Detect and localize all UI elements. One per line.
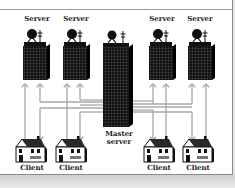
server-label: Server [24,15,50,23]
server-label: Server [149,15,175,23]
client-label: Client [18,164,46,172]
client-label: Client [57,164,85,172]
client-label: Client [184,164,212,172]
master-server-label: server [102,138,136,146]
client-label: Client [145,164,173,172]
server-label: Server [187,15,213,23]
server-label: Server [63,15,89,23]
master-server-tower-icon [103,31,133,128]
network-diagram [0,0,235,188]
